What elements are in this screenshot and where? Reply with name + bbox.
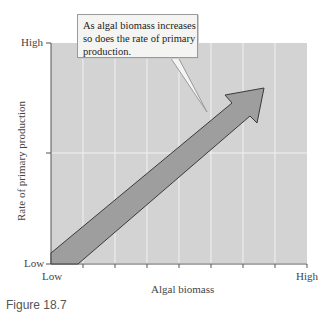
figure-caption: Figure 18.7 <box>6 298 67 312</box>
y-axis-title: Rate of primary production <box>15 91 27 231</box>
x-axis-low-label: Low <box>42 270 62 282</box>
y-axis-high-label: High <box>21 36 43 48</box>
x-axis-high-label: High <box>296 270 318 282</box>
y-axis-low-label: Low <box>24 257 44 269</box>
callout-box: As algal biomass increases so does the r… <box>77 14 198 58</box>
x-axis-title: Algal biomass <box>151 283 214 295</box>
